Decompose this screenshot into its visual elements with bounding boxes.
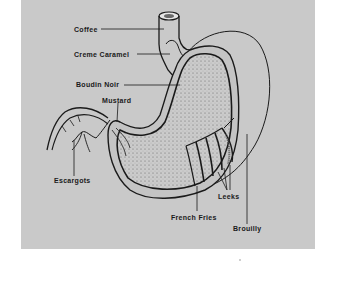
speck: [239, 259, 241, 261]
label-escargots: Escargots: [54, 177, 91, 185]
label-creme-caramel: Creme Caramel: [74, 51, 129, 58]
label-french-fries: French Fries: [171, 214, 217, 221]
label-coffee: Coffee: [74, 26, 98, 33]
label-boudin-noir: Boudin Noir: [76, 81, 119, 88]
label-mustard: Mustard: [102, 97, 131, 104]
stomach-diagram: Coffee Creme Caramel Boudin Noir Mustard…: [0, 0, 341, 288]
label-leeks: Leeks: [218, 193, 239, 200]
label-brouilly: Brouilly: [233, 225, 261, 233]
mustard-leader: [117, 103, 118, 122]
